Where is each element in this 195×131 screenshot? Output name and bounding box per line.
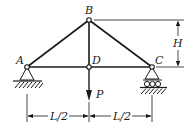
joint-C: [150, 65, 155, 70]
roller-support-C: [140, 67, 167, 94]
load-arrow-P: [86, 67, 92, 101]
label-C: C: [155, 54, 164, 67]
height-dimension: [94, 20, 184, 67]
truss-diagram: B A D C P H L/2 L/2: [0, 0, 195, 131]
label-A: A: [15, 54, 24, 67]
label-H: H: [172, 37, 183, 50]
label-D: D: [91, 54, 101, 67]
joint-D: [87, 65, 92, 70]
joint-B: [87, 18, 92, 23]
label-B: B: [84, 4, 93, 17]
label-P: P: [95, 88, 104, 101]
pin-support-A: [13, 67, 43, 88]
label-left-span: L/2: [49, 110, 68, 123]
member-AB: [27, 20, 89, 67]
joint-A: [25, 65, 30, 70]
label-right-span: L/2: [112, 110, 131, 123]
